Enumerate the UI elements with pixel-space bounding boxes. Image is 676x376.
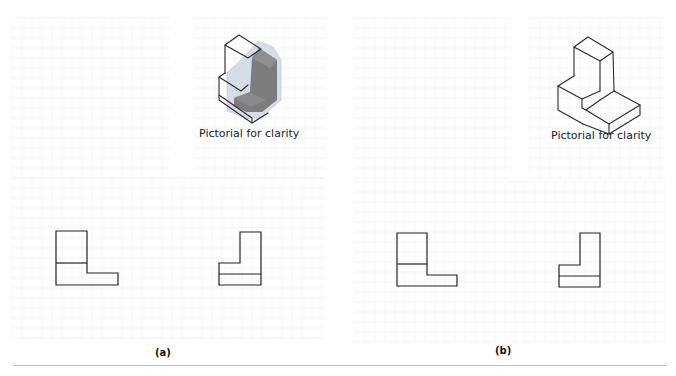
- side-view-a-outline: [219, 232, 261, 285]
- panel-label-a: (a): [155, 347, 171, 358]
- front-view-b-outline: [397, 233, 457, 286]
- grid-paper-backgrounds: [12, 18, 665, 342]
- pictorial-caption-a: Pictorial for clarity: [199, 127, 299, 140]
- front-view-b: [397, 233, 457, 286]
- grid-region: [12, 18, 170, 180]
- pictorial-b-left-step-edge: [582, 99, 600, 110]
- grid-region: [12, 178, 325, 340]
- grid-region: [355, 182, 665, 342]
- figure-canvas: [0, 0, 676, 376]
- pictorial-b-left-step-front: [558, 86, 583, 124]
- pictorial-b-left-step: [558, 76, 600, 99]
- grid-region: [355, 18, 510, 180]
- pictorial-caption-b: Pictorial for clarity: [551, 129, 651, 142]
- bottom-divider: [14, 365, 666, 366]
- pictorial-b-base-top: [586, 91, 640, 124]
- panel-label-b: (b): [495, 345, 511, 356]
- side-view-a: [219, 232, 261, 285]
